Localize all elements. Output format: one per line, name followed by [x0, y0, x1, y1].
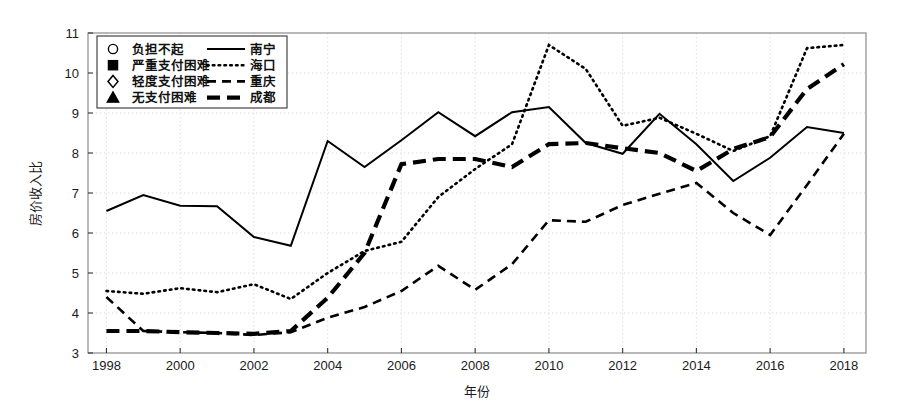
- x-tick-label: 2004: [313, 358, 342, 373]
- x-axis-title: 年份: [464, 384, 490, 399]
- chart-canvas: 3456789101119982000200220042006200820102…: [0, 0, 905, 412]
- y-tick-label: 9: [72, 106, 79, 121]
- y-tick-label: 3: [72, 346, 79, 361]
- x-tick-label: 2016: [756, 358, 785, 373]
- x-tick-label: 2014: [682, 358, 711, 373]
- x-tick-label: 2002: [239, 358, 268, 373]
- legend-marker-label: 轻度支付困难: [132, 74, 210, 89]
- legend-marker-label: 负担不起: [132, 42, 184, 57]
- x-tick-label: 2006: [387, 358, 416, 373]
- y-tick-label: 11: [66, 26, 80, 41]
- legend-line-label: 南宁: [250, 42, 276, 57]
- y-tick-label: 7: [72, 186, 79, 201]
- legend-line-label: 海口: [250, 58, 276, 73]
- x-tick-label: 2010: [534, 358, 563, 373]
- y-tick-label: 5: [72, 266, 79, 281]
- y-tick-label: 8: [72, 146, 79, 161]
- legend-line-label: 重庆: [250, 74, 276, 89]
- y-axis-title: 房价收入比: [28, 161, 43, 226]
- legend-marker-label: 严重支付困难: [131, 58, 210, 73]
- x-tick-label: 2018: [829, 358, 858, 373]
- data-point-marker-square: [108, 61, 117, 70]
- series-line-南宁: [106, 107, 843, 246]
- chart-figure: 3456789101119982000200220042006200820102…: [0, 0, 905, 412]
- x-tick-label: 2012: [608, 358, 637, 373]
- data-point-marker-circle: [108, 44, 117, 53]
- legend-line-label: 成都: [250, 90, 276, 105]
- x-tick-label: 1998: [92, 358, 121, 373]
- x-tick-label: 2008: [461, 358, 490, 373]
- y-tick-label: 10: [65, 66, 79, 81]
- series-南宁: [106, 107, 843, 246]
- y-tick-label: 4: [72, 306, 79, 321]
- y-tick-label: 6: [72, 226, 79, 241]
- legend-marker-label: 无支付困难: [131, 90, 197, 105]
- x-tick-label: 2000: [166, 358, 195, 373]
